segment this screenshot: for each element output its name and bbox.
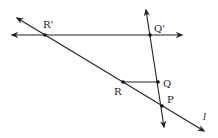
label-r: R	[114, 86, 122, 97]
point-r-prime	[43, 33, 47, 37]
point-q-prime	[148, 33, 152, 37]
label-l: l	[203, 111, 206, 122]
label-r-prime: R'	[43, 19, 53, 30]
label-q-prime: Q'	[154, 23, 165, 34]
point-p	[160, 104, 164, 108]
geometry-diagram: R' Q' R Q P l	[0, 0, 218, 138]
point-r	[121, 80, 125, 84]
label-p: P	[167, 94, 174, 105]
point-q	[156, 80, 160, 84]
label-q: Q	[163, 78, 171, 89]
